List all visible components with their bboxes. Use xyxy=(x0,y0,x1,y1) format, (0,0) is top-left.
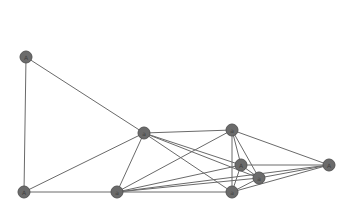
edge-n1-n9 xyxy=(24,57,26,192)
graph-node[interactable]: A xyxy=(18,186,30,198)
node-label: a xyxy=(115,189,119,196)
edge-n3-n5 xyxy=(232,130,259,178)
graph-node[interactable]: a xyxy=(226,186,238,198)
edge-n1-n2 xyxy=(26,57,144,133)
graph-node[interactable]: a xyxy=(111,186,123,198)
node-layer: AaaAaaAaA xyxy=(18,51,335,198)
edge-n2-n9 xyxy=(24,133,144,192)
graph-node[interactable]: A xyxy=(323,159,335,171)
edge-n3-n7 xyxy=(232,130,329,165)
graph-node[interactable]: A xyxy=(20,51,32,63)
edge-n2-n8 xyxy=(117,133,144,192)
edge-layer xyxy=(24,57,329,192)
graph-node[interactable]: a xyxy=(226,124,238,136)
node-label: a xyxy=(230,189,234,196)
node-label: a xyxy=(142,130,146,137)
graph-node[interactable]: A xyxy=(235,159,247,171)
graph-node[interactable]: a xyxy=(138,127,150,139)
network-graph: AaaAaaAaA xyxy=(0,0,351,212)
edge-n2-n3 xyxy=(144,130,232,133)
graph-node[interactable]: a xyxy=(253,172,265,184)
node-label: a xyxy=(257,175,261,182)
edge-n5-n7 xyxy=(259,165,329,178)
edge-n2-n4 xyxy=(144,133,241,165)
node-label: a xyxy=(230,127,234,134)
